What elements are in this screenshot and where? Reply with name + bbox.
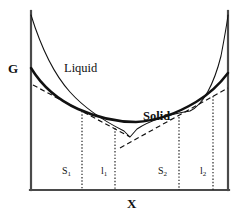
- x-axis-title: X: [127, 197, 137, 210]
- marker-label-l2-subscript: 2: [203, 170, 207, 178]
- marker-label-s1-letter: S: [62, 165, 68, 176]
- marker-label-s2-letter: S: [158, 165, 164, 176]
- solid-curve-label: Solid: [143, 110, 170, 123]
- marker-label-s2: S2: [158, 166, 167, 176]
- y-axis-title: G: [8, 62, 18, 75]
- marker-label-s1-subscript: 1: [68, 170, 72, 178]
- marker-label-l1-subscript: 1: [104, 170, 108, 178]
- marker-label-s1: S1: [62, 166, 71, 176]
- liquid-curve: [31, 15, 228, 137]
- free-energy-composition-diagram: G X Liquid Solid S1 l1 S2 l2: [0, 0, 248, 219]
- solid-curve: [31, 68, 228, 122]
- liquid-curve-label: Liquid: [64, 62, 97, 75]
- common-tangent-right: [120, 88, 228, 148]
- marker-label-s2-subscript: 2: [164, 170, 168, 178]
- plot-area: [0, 0, 248, 219]
- marker-label-l2: l2: [200, 166, 206, 176]
- marker-label-l1: l1: [101, 166, 107, 176]
